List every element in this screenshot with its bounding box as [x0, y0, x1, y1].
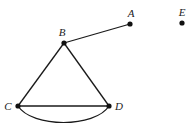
label-c: C [4, 100, 12, 112]
label-a: A [127, 7, 135, 19]
edge-b-c [18, 43, 64, 106]
edge-c-d-curved [18, 106, 109, 123]
edge-b-d [64, 43, 109, 106]
node-b [61, 40, 66, 45]
label-d: D [114, 100, 123, 112]
node-e [179, 20, 184, 25]
node-c [15, 103, 20, 108]
edge-b-a [64, 24, 130, 43]
graph-diagram: A B C D E [0, 0, 191, 126]
node-a [127, 21, 132, 26]
label-e: E [178, 6, 186, 18]
node-d [106, 103, 111, 108]
label-b: B [59, 26, 66, 38]
